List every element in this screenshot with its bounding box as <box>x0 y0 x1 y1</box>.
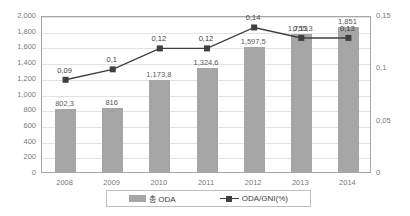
line-marker[interactable] <box>110 66 116 72</box>
chart-legend: 총 ODA ODA/GNI(%) <box>106 190 311 207</box>
x-axis-tick-label: 2014 <box>324 178 371 187</box>
bar-swatch-icon <box>129 195 146 202</box>
bar-value-label: 1,597,5 <box>230 37 276 46</box>
left-axis-tick-label: 1,200 <box>0 75 36 83</box>
bar-value-label: 1,324,6 <box>183 58 229 67</box>
line-point-label: 0,1 <box>92 55 132 64</box>
left-axis-tick-label: 200 <box>0 153 36 161</box>
bar-value-label: 816 <box>89 98 135 107</box>
legend-label-oda-gni: ODA/GNI(%) <box>242 194 288 203</box>
line-point-label: 0,12 <box>186 34 226 43</box>
line-marker[interactable] <box>298 35 304 41</box>
left-axis-tick-label: 2,000 <box>0 12 36 20</box>
left-axis-tick-label: 400 <box>0 138 36 146</box>
x-axis-tick-label: 2012 <box>230 178 277 187</box>
right-axis-tick-label: 0,1 <box>376 64 386 72</box>
legend-item-oda-gni[interactable]: ODA/GNI(%) <box>220 194 288 203</box>
bar-value-label: 802,3 <box>42 99 88 108</box>
left-axis-tick-label: 1,800 <box>0 28 36 36</box>
left-axis-tick-label: 1,000 <box>0 91 36 99</box>
left-axis-tick-label: 1,600 <box>0 43 36 51</box>
bar-value-label: 1,173,8 <box>136 70 182 79</box>
line-point-label: 0,13 <box>327 24 367 33</box>
right-axis-tick-label: 0 <box>376 169 380 177</box>
line-marker[interactable] <box>63 77 69 83</box>
line-marker[interactable] <box>204 45 210 51</box>
line-point-label: 0,12 <box>139 34 179 43</box>
right-axis-tick-label: 0,05 <box>376 117 391 125</box>
left-axis-tick-label: 0 <box>0 169 36 177</box>
line-marker[interactable] <box>157 45 163 51</box>
left-axis-tick-label: 1,400 <box>0 59 36 67</box>
line-point-label: 0,13 <box>280 24 320 33</box>
line-marker[interactable] <box>345 35 351 41</box>
left-axis-tick-label: 600 <box>0 122 36 130</box>
x-axis-tick-label: 2009 <box>88 178 135 187</box>
x-axis-tick-label: 2013 <box>277 178 324 187</box>
line-point-label: 0,09 <box>45 66 85 75</box>
x-axis-tick-label: 2010 <box>135 178 182 187</box>
legend-label-oda: 총 ODA <box>149 193 176 204</box>
chart-container: 02004006008001,0001,2001,4001,6001,8002,… <box>0 0 410 216</box>
legend-item-oda[interactable]: 총 ODA <box>129 193 176 204</box>
left-axis-tick-label: 800 <box>0 106 36 114</box>
line-point-label: 0,14 <box>233 13 273 22</box>
line-marker-swatch-icon <box>220 195 239 202</box>
line-marker[interactable] <box>251 24 257 30</box>
x-axis-tick-label: 2011 <box>183 178 230 187</box>
x-axis-tick-label: 2008 <box>41 178 88 187</box>
right-axis-tick-label: 0,15 <box>376 12 391 20</box>
